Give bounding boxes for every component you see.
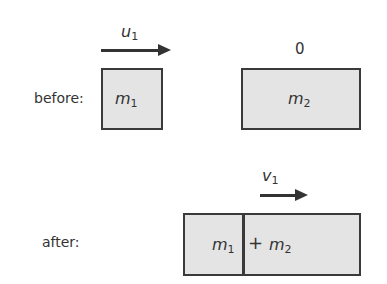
combined-mass-box: m1 + m2 [183,213,361,276]
combined-mass1-label: m1 [212,235,235,256]
before-label: before: [34,90,84,106]
velocity-zero-label: 0 [295,40,305,58]
mass2-label: m2 [288,89,311,110]
combined-mass2-label: m2 [269,235,292,256]
plus-sign: + [248,232,263,253]
velocity-u1-label: u1 [121,22,138,43]
after-label: after: [42,234,80,250]
velocity-v1-label: v1 [262,166,278,187]
velocity-v1-arrow-icon [260,194,304,197]
mass1-label: m1 [115,89,138,110]
velocity-u1-arrow-icon [101,49,167,52]
mass-divider [242,215,245,274]
mass1-box: m1 [101,68,163,130]
mass2-box: m2 [241,68,361,130]
